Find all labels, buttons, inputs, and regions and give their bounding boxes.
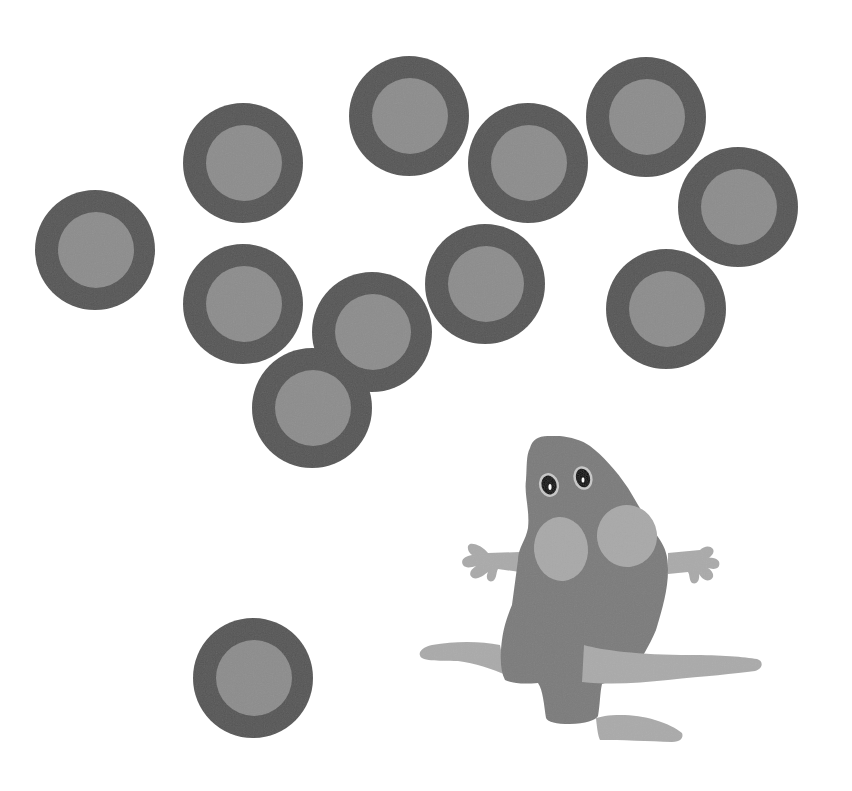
ring-inner [206,266,282,342]
ring-inner [609,79,685,155]
ring-circle [183,103,303,223]
ring-inner [491,125,567,201]
ring-circle [252,348,372,468]
ring-inner [58,212,134,288]
ring-circle [468,103,588,223]
ring-circle [349,56,469,176]
ring-circle [606,249,726,369]
ring-inner [372,78,448,154]
cutout-scene [0,0,852,791]
ring-circle [193,618,313,738]
ring-circle [678,147,798,267]
ring-inner [701,169,777,245]
ring-inner [335,294,411,370]
ring-circle [35,190,155,310]
ring-circle [183,244,303,364]
ring-circle [586,57,706,177]
ring-inner [629,271,705,347]
ring-circle [425,224,545,344]
ring-inner [206,125,282,201]
ring-inner [275,370,351,446]
ring-inner [448,246,524,322]
ring-inner [216,640,292,716]
